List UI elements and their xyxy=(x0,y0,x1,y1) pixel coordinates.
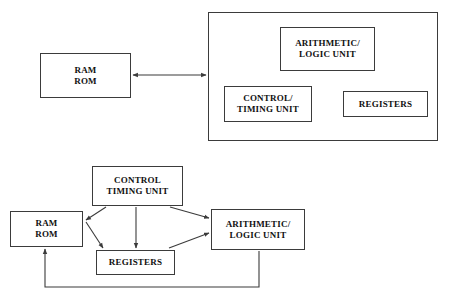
bottom-registers-box: REGISTERS xyxy=(96,250,175,275)
bottom-alu-box: ARITHMETIC/ LOGIC UNIT xyxy=(211,209,305,250)
diagram-page: RAM ROM ARITHMETIC/ LOGIC UNIT CONTROL/ … xyxy=(0,0,451,302)
registers-to-alu-arrow xyxy=(169,233,209,248)
memory-to-registers-arrow xyxy=(86,222,103,248)
control-to-alu-arrow xyxy=(170,207,209,218)
bottom-control-timing-label: CONTROL TIMING UNIT xyxy=(105,175,171,197)
bottom-alu-label: ARITHMETIC/ LOGIC UNIT xyxy=(224,219,293,241)
bottom-memory-box: RAM ROM xyxy=(10,211,83,247)
bottom-registers-label: REGISTERS xyxy=(107,257,164,268)
bottom-control-timing-box: CONTROL TIMING UNIT xyxy=(92,166,183,206)
bottom-memory-label: RAM ROM xyxy=(33,218,60,240)
connector-layer xyxy=(0,0,451,302)
control-to-memory-arrow xyxy=(86,207,106,220)
